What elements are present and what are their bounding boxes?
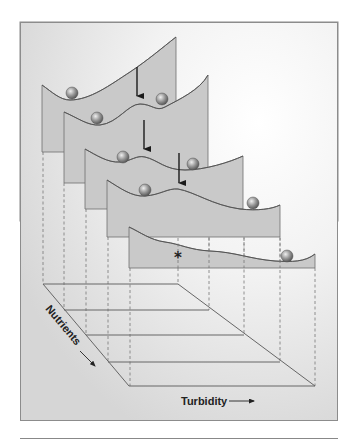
stability-landscape-figure: * Nutrients Turbidity xyxy=(0,0,351,444)
ball-icon xyxy=(139,184,151,196)
ball-icon xyxy=(187,158,199,170)
ball-icon xyxy=(91,112,103,124)
ball-icon xyxy=(117,151,129,163)
ball-icon xyxy=(156,93,168,105)
ball-icon xyxy=(281,250,293,262)
ball-icon xyxy=(66,87,78,99)
turbidity-label: Turbidity xyxy=(181,395,228,407)
ball-icon xyxy=(247,197,259,209)
star-marker: * xyxy=(174,249,182,267)
